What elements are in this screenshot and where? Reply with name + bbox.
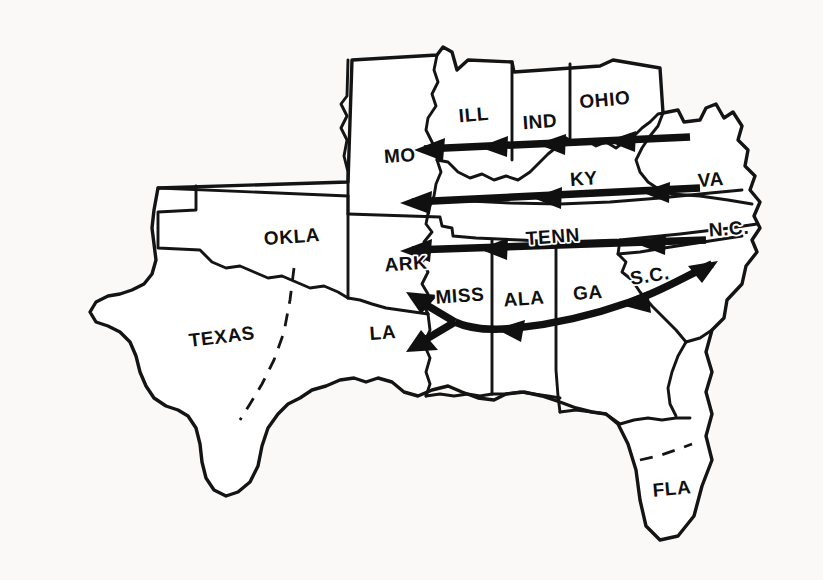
state-label-ill: ILL (458, 103, 490, 127)
state-label-fla: FLA (652, 476, 692, 500)
state-label-la: LA (369, 321, 397, 344)
state-label-nc: N.C. (708, 217, 750, 241)
state-label-ala: ALA (503, 287, 545, 311)
map-figure: TEXAS OKLA MO ILL IND OHIO KY VA TENN N.… (0, 0, 823, 580)
state-label-va: VA (697, 168, 725, 191)
state-label-tenn: TENN (525, 224, 580, 249)
map-svg: TEXAS OKLA MO ILL IND OHIO KY VA TENN N.… (0, 0, 823, 580)
state-label-okla: OKLA (263, 224, 321, 249)
state-label-ark: ARK (384, 252, 428, 276)
state-label-ind: IND (522, 110, 558, 133)
state-label-mo: MO (383, 144, 416, 167)
state-label-ga: GA (572, 281, 603, 304)
state-label-ky: KY (569, 167, 598, 190)
state-label-ohio: OHIO (579, 87, 632, 112)
state-label-miss: MISS (435, 283, 485, 307)
border-miss-south (426, 394, 492, 396)
